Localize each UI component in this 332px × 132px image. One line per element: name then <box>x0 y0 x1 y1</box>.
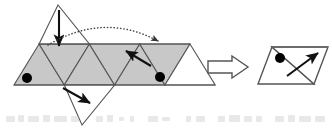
top-flap-triangle <box>39 5 89 44</box>
dot-right <box>155 72 165 82</box>
geometry-figure-svg <box>0 0 332 132</box>
folded-rhombus-result <box>258 47 328 84</box>
figure-canvas <box>0 0 332 132</box>
block-arrow-right <box>208 56 248 78</box>
triangle-strip-net <box>14 5 215 125</box>
dot-result <box>275 53 285 63</box>
bottom-flap-triangle <box>64 85 114 125</box>
dot-left <box>22 73 32 83</box>
